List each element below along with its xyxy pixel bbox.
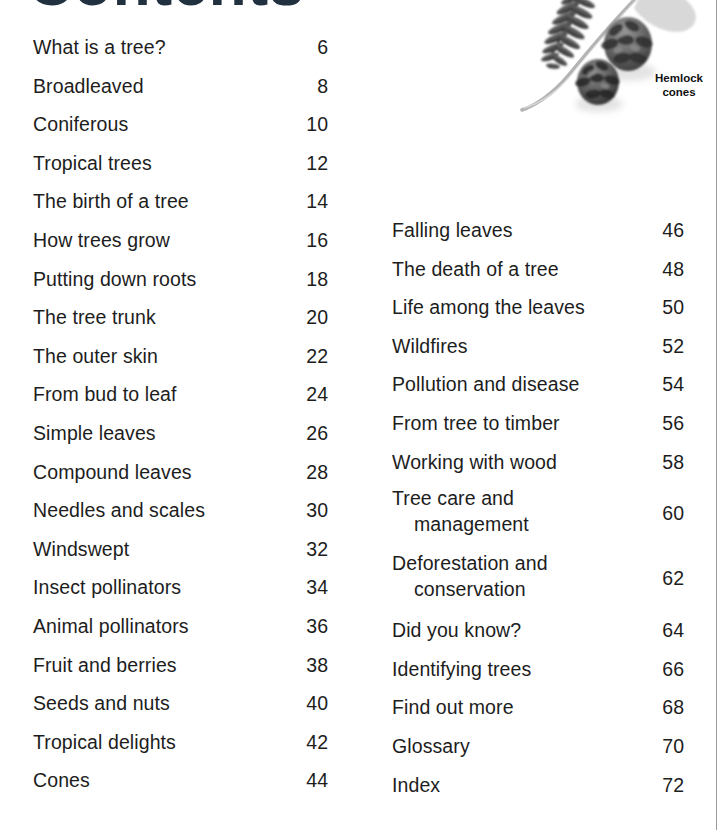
- toc-entry[interactable]: Identifying trees 66: [392, 650, 684, 689]
- toc-entry-page: 48: [644, 250, 684, 289]
- photo-caption-line1: Hemlock: [646, 72, 712, 86]
- toc-entry[interactable]: Find out more 68: [392, 688, 684, 727]
- toc-entry-label: Falling leaves: [392, 211, 513, 250]
- toc-entry[interactable]: Putting down roots 18: [33, 260, 328, 299]
- toc-entry-page: 64: [644, 611, 684, 650]
- toc-entry[interactable]: Index 72: [392, 766, 684, 805]
- toc-entry[interactable]: Insect pollinators 34: [33, 568, 328, 607]
- toc-entry[interactable]: What is a tree? 6: [33, 28, 328, 67]
- toc-entry[interactable]: Falling leaves 46: [392, 211, 684, 250]
- toc-entry[interactable]: The death of a tree 48: [392, 250, 684, 289]
- toc-entry-label: From bud to leaf: [33, 375, 177, 414]
- toc-entry[interactable]: Compound leaves 28: [33, 453, 328, 492]
- toc-entry-page: 32: [288, 530, 328, 569]
- toc-entry-page: 10: [288, 105, 328, 144]
- toc-entry[interactable]: Wildfires 52: [392, 327, 684, 366]
- toc-entry-page: 34: [288, 568, 328, 607]
- toc-entry-page: 22: [288, 337, 328, 376]
- toc-entry-label: Identifying trees: [392, 650, 531, 689]
- toc-entry-label-line1: Deforestation and: [392, 552, 548, 574]
- toc-entry-page: 42: [288, 723, 328, 762]
- toc-entry[interactable]: Animal pollinators 36: [33, 607, 328, 646]
- toc-entry-page: 18: [288, 260, 328, 299]
- toc-entry-page: 52: [644, 327, 684, 366]
- toc-entry-label: Tropical trees: [33, 144, 152, 183]
- toc-entry-label: Life among the leaves: [392, 288, 585, 327]
- toc-entry-page: 40: [288, 684, 328, 723]
- toc-entry[interactable]: Simple leaves 26: [33, 414, 328, 453]
- toc-entry[interactable]: How trees grow 16: [33, 221, 328, 260]
- toc-entry-label: Insect pollinators: [33, 568, 181, 607]
- toc-entry-label: The birth of a tree: [33, 182, 189, 221]
- toc-entry[interactable]: The tree trunk 20: [33, 298, 328, 337]
- toc-entry[interactable]: Needles and scales 30: [33, 491, 328, 530]
- toc-entry[interactable]: Coniferous 10: [33, 105, 328, 144]
- toc-entry-page: 38: [288, 646, 328, 685]
- toc-entry-page: 6: [288, 28, 328, 67]
- toc-entry[interactable]: Tree care and management 60: [392, 481, 684, 546]
- conifer-branch: [540, 0, 596, 70]
- toc-entry[interactable]: From tree to timber 56: [392, 404, 684, 443]
- toc-entry-label: Fruit and berries: [33, 646, 177, 685]
- toc-entry-page: 12: [288, 144, 328, 183]
- photo-caption-line2: cones: [646, 86, 712, 100]
- toc-entry-page: 54: [644, 365, 684, 404]
- toc-entry[interactable]: The outer skin 22: [33, 337, 328, 376]
- toc-entry-label: Glossary: [392, 727, 470, 766]
- toc-entry-label: Animal pollinators: [33, 607, 189, 646]
- toc-entry-label: Cones: [33, 761, 90, 800]
- toc-entry-label-line1: Tree care and: [392, 487, 514, 509]
- toc-entry[interactable]: Tropical delights 42: [33, 723, 328, 762]
- contents-right-column: Falling leaves 46 The death of a tree 48…: [392, 211, 684, 804]
- toc-entry-page: 26: [288, 414, 328, 453]
- toc-entry-label: The death of a tree: [392, 250, 559, 289]
- contents-page: Contents: [0, 0, 726, 830]
- toc-entry[interactable]: Life among the leaves 50: [392, 288, 684, 327]
- toc-entry[interactable]: Glossary 70: [392, 727, 684, 766]
- toc-entry-label-line2: conservation: [392, 577, 617, 602]
- contents-left-column: What is a tree? 6 Broadleaved 8 Conifero…: [33, 28, 328, 800]
- photo-caption: Hemlock cones: [646, 72, 712, 99]
- toc-entry-page: 68: [644, 688, 684, 727]
- toc-entry[interactable]: Seeds and nuts 40: [33, 684, 328, 723]
- toc-entry-label: Find out more: [392, 688, 514, 727]
- toc-entry[interactable]: Broadleaved 8: [33, 67, 328, 106]
- toc-entry-page: 70: [644, 727, 684, 766]
- toc-entry[interactable]: Deforestation and conservation 62: [392, 546, 684, 611]
- toc-entry-label: The outer skin: [33, 337, 158, 376]
- toc-entry-label-line2: management: [392, 512, 617, 537]
- toc-entry-label: Coniferous: [33, 105, 128, 144]
- toc-entry[interactable]: Cones 44: [33, 761, 328, 800]
- toc-entry-label: Did you know?: [392, 611, 521, 650]
- toc-entry-label: What is a tree?: [33, 28, 166, 67]
- toc-entry-label: Deforestation and conservation: [392, 551, 617, 602]
- toc-entry-label: Broadleaved: [33, 67, 144, 106]
- toc-entry-label: Seeds and nuts: [33, 684, 170, 723]
- toc-entry-page: 14: [288, 182, 328, 221]
- toc-entry-page: 60: [644, 504, 684, 524]
- toc-entry[interactable]: The birth of a tree 14: [33, 182, 328, 221]
- toc-entry-label: Compound leaves: [33, 453, 192, 492]
- toc-entry-page: 44: [288, 761, 328, 800]
- toc-entry-label: Pollution and disease: [392, 365, 579, 404]
- toc-entry-page: 30: [288, 491, 328, 530]
- toc-entry[interactable]: Fruit and berries 38: [33, 646, 328, 685]
- toc-entry[interactable]: Windswept 32: [33, 530, 328, 569]
- toc-entry[interactable]: Pollution and disease 54: [392, 365, 684, 404]
- toc-entry-label: The tree trunk: [33, 298, 156, 337]
- toc-entry-page: 56: [644, 404, 684, 443]
- toc-entry[interactable]: Tropical trees 12: [33, 144, 328, 183]
- toc-entry-page: 36: [288, 607, 328, 646]
- page-title: Contents: [28, 0, 305, 19]
- toc-entry-page: 24: [288, 375, 328, 414]
- hemlock-branch-and-cones-photo: Hemlock cones: [498, 0, 716, 128]
- toc-entry-label: Simple leaves: [33, 414, 156, 453]
- toc-entry-label: Windswept: [33, 530, 129, 569]
- toc-entry[interactable]: Working with wood 58: [392, 443, 684, 482]
- toc-entry-label: Working with wood: [392, 443, 557, 482]
- toc-entry-label: From tree to timber: [392, 404, 560, 443]
- toc-entry[interactable]: Did you know? 64: [392, 611, 684, 650]
- toc-entry[interactable]: From bud to leaf 24: [33, 375, 328, 414]
- toc-entry-page: 16: [288, 221, 328, 260]
- toc-entry-page: 62: [644, 569, 684, 589]
